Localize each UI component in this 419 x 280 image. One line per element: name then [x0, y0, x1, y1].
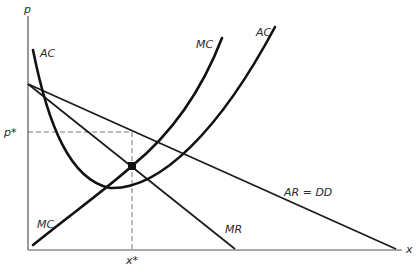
mc-label-top: MC — [196, 38, 213, 51]
mc-label-bottom: MC — [37, 218, 54, 231]
ar-dd-curve — [28, 84, 396, 249]
equilibrium-point — [128, 162, 136, 170]
x-axis-label: x — [405, 243, 413, 256]
quantity-star-label: x* — [125, 254, 139, 267]
price-star-label: p* — [3, 126, 17, 139]
mr-label: MR — [225, 223, 242, 236]
y-axis-label: p — [23, 3, 31, 16]
ac-label-left: AC — [39, 47, 56, 60]
ac-curve — [33, 27, 275, 188]
cost-revenue-diagram: p x p* x* AC AC MC MC AR = DD MR — [0, 0, 419, 280]
ac-label-top: AC — [255, 26, 272, 39]
ar-dd-label: AR = DD — [283, 186, 332, 199]
